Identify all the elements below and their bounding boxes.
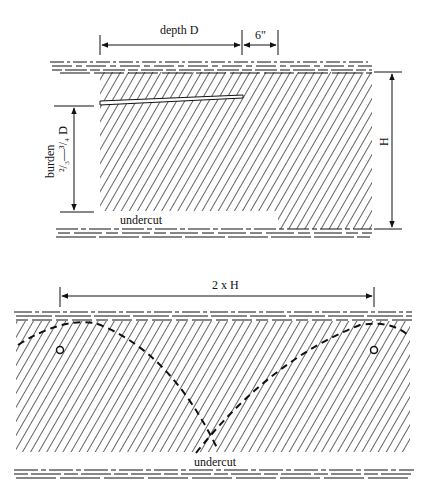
undercut-label-top: undercut <box>120 213 163 227</box>
strata-bottom-band-bottom <box>14 470 414 478</box>
strata-bottom-band <box>56 229 372 237</box>
undercut-label-bottom: undercut <box>194 455 237 469</box>
diagram-canvas: depth D 6" burden ²/₃—³/₄ D H undercut 2… <box>0 0 434 503</box>
top-diagram: depth D 6" burden ²/₃—³/₄ D H undercut <box>43 23 402 237</box>
blast-hole-right <box>371 347 378 354</box>
height-label: H <box>377 137 391 146</box>
burden-ratio-label: ²/₃—³/₄ D <box>56 126 70 172</box>
strata-top-band <box>50 62 372 73</box>
clearance-label: 6" <box>255 28 266 42</box>
blast-hole-left <box>57 347 64 354</box>
strata-top-band-bottom <box>14 312 412 320</box>
height-dimension <box>374 72 402 229</box>
bottom-diagram: 2 x H undercut <box>14 278 414 478</box>
burden-label: burden <box>43 145 57 178</box>
span-label: 2 x H <box>212 278 239 292</box>
depth-label: depth D <box>160 23 199 37</box>
